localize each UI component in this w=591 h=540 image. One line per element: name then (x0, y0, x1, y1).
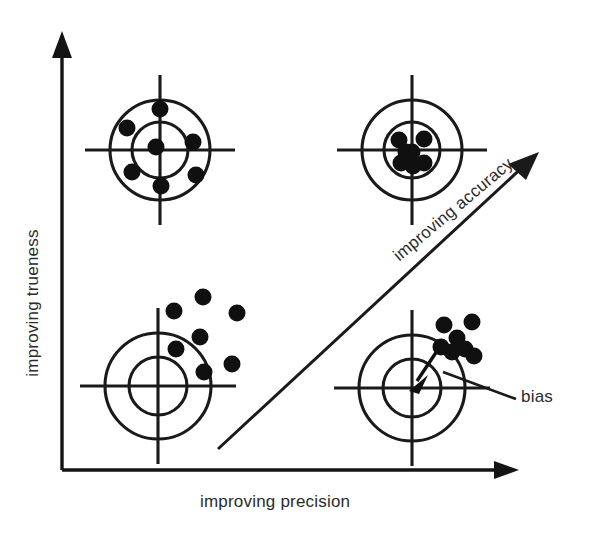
shot-dot (192, 329, 209, 346)
bias-leader-line (443, 372, 516, 399)
accuracy-precision-diagram: improving precision improving trueness i… (0, 0, 591, 540)
shot-dot (398, 144, 415, 161)
shot-dot (224, 356, 241, 373)
shot-dot (466, 348, 483, 365)
y-axis-label: improving trueness (23, 223, 43, 383)
shot-dot (153, 178, 170, 195)
shot-dot (119, 120, 136, 137)
axis-group (52, 31, 519, 479)
x-axis-label: improving precision (200, 492, 350, 512)
improving-accuracy-arrow (218, 152, 539, 449)
shot-dot (464, 314, 481, 331)
shot-dot (185, 134, 202, 151)
shot-dot (188, 167, 205, 184)
x-axis-arrowhead-icon (494, 461, 519, 479)
target-bottom-right (334, 310, 516, 466)
shot-dot (196, 364, 213, 381)
target-top-left (85, 75, 235, 225)
shot-dot (444, 344, 461, 361)
shot-dot (168, 341, 185, 358)
shot-dot (166, 303, 183, 320)
diagram-canvas (0, 0, 591, 540)
y-axis-arrowhead-icon (52, 31, 72, 58)
target-bottom-left (80, 289, 246, 465)
shot-dot (148, 139, 165, 156)
shot-dot (436, 317, 453, 334)
shot-dot (229, 305, 246, 322)
shot-dot (416, 131, 433, 148)
accuracy-arrow-shaft (218, 163, 527, 449)
shot-dot (152, 101, 169, 118)
bias-label: bias (521, 387, 553, 407)
shot-dot (124, 164, 141, 181)
shot-dot (195, 289, 212, 306)
